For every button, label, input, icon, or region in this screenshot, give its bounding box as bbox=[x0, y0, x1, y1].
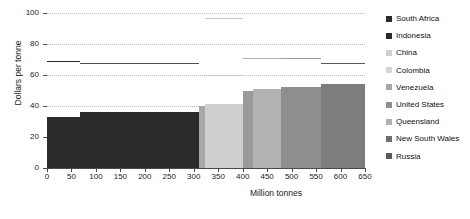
price-line-5 bbox=[243, 58, 281, 59]
legend-item-russia[interactable]: Russia bbox=[386, 148, 470, 165]
chart-root: 020406080100 050100150200250300350400450… bbox=[0, 0, 470, 219]
legend-label: China bbox=[396, 48, 417, 57]
x-tick-mark bbox=[96, 169, 97, 172]
legend-label: Venezuela bbox=[396, 83, 433, 92]
legend-swatch-icon bbox=[386, 136, 392, 142]
bar-south-africa bbox=[47, 117, 80, 168]
bar-indonesia bbox=[80, 112, 199, 168]
legend-item-queensland[interactable]: Queensland bbox=[386, 113, 470, 130]
gridline bbox=[47, 13, 365, 14]
x-axis-label: Million tonnes bbox=[250, 188, 302, 198]
legend-item-united-states[interactable]: United States bbox=[386, 96, 470, 113]
legend-swatch-icon bbox=[386, 33, 392, 39]
x-tick-mark bbox=[341, 169, 342, 172]
bar-new-south-wales bbox=[321, 84, 365, 168]
x-tick-mark bbox=[218, 169, 219, 172]
legend-item-new-south-wales[interactable]: New South Wales bbox=[386, 130, 470, 147]
legend-swatch-icon bbox=[386, 119, 392, 125]
legend-item-venezuela[interactable]: Venezuela bbox=[386, 79, 470, 96]
x-tick-mark bbox=[292, 169, 293, 172]
legend-label: New South Wales bbox=[396, 134, 459, 143]
x-tick-mark bbox=[243, 169, 244, 172]
y-tick-label: 0 bbox=[13, 164, 39, 172]
x-tick-mark bbox=[365, 169, 366, 172]
price-line-4 bbox=[205, 75, 243, 76]
legend-swatch-icon bbox=[386, 50, 392, 56]
x-tick-mark bbox=[47, 169, 48, 172]
bar-queensland bbox=[281, 87, 321, 168]
legend-label: Queensland bbox=[396, 117, 439, 126]
x-tick-mark bbox=[169, 169, 170, 172]
price-line-1 bbox=[47, 61, 80, 62]
x-axis-line bbox=[47, 168, 366, 169]
legend: South AfricaIndonesiaChinaColombiaVenezu… bbox=[386, 10, 470, 165]
legend-swatch-icon bbox=[386, 153, 392, 159]
x-tick-mark bbox=[316, 169, 317, 172]
legend-swatch-icon bbox=[386, 67, 392, 73]
legend-label: Colombia bbox=[396, 66, 430, 75]
legend-label: Indonesia bbox=[396, 31, 431, 40]
x-tick-label: 650 bbox=[350, 172, 380, 181]
legend-item-colombia[interactable]: Colombia bbox=[386, 62, 470, 79]
legend-item-south-africa[interactable]: South Africa bbox=[386, 10, 470, 27]
price-line-7 bbox=[321, 63, 365, 64]
price-line-3 bbox=[205, 18, 243, 19]
y-tick-mark bbox=[43, 13, 47, 14]
legend-swatch-icon bbox=[386, 84, 392, 90]
y-tick-mark bbox=[43, 44, 47, 45]
y-tick-mark bbox=[43, 75, 47, 76]
legend-label: South Africa bbox=[396, 14, 439, 23]
legend-swatch-icon bbox=[386, 102, 392, 108]
legend-item-china[interactable]: China bbox=[386, 44, 470, 61]
x-tick-mark bbox=[194, 169, 195, 172]
y-tick-mark bbox=[43, 106, 47, 107]
bar-colombia bbox=[205, 104, 243, 168]
x-tick-mark bbox=[120, 169, 121, 172]
x-tick-mark bbox=[71, 169, 72, 172]
y-tick-mark bbox=[43, 137, 47, 138]
x-tick-mark bbox=[267, 169, 268, 172]
gridline bbox=[47, 44, 365, 45]
bar-venezuela bbox=[243, 91, 253, 169]
price-line-6 bbox=[281, 58, 321, 59]
legend-label: United States bbox=[396, 100, 444, 109]
price-line-2 bbox=[80, 63, 199, 64]
legend-item-indonesia[interactable]: Indonesia bbox=[386, 27, 470, 44]
bar-united-states bbox=[253, 89, 281, 168]
legend-swatch-icon bbox=[386, 16, 392, 22]
plot-area bbox=[47, 13, 365, 168]
legend-label: Russia bbox=[396, 152, 420, 161]
y-axis-label: Dollars per tonne bbox=[13, 8, 23, 138]
x-tick-mark bbox=[145, 169, 146, 172]
